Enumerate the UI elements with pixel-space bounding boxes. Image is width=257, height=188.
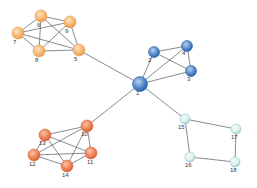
node-label: 10 (81, 131, 88, 137)
node-label: 5 (74, 56, 78, 62)
node-5[interactable]: 5 (73, 44, 85, 62)
node-15[interactable]: 15 (178, 114, 190, 130)
node-label: 13 (39, 140, 46, 146)
node-circle[interactable] (61, 160, 73, 172)
node-label: 14 (62, 172, 69, 178)
node-label: 11 (87, 159, 94, 165)
node-3[interactable]: 3 (186, 66, 197, 83)
node-label: 12 (29, 161, 36, 167)
node-12[interactable]: 12 (28, 149, 40, 167)
node-17[interactable]: 17 (231, 124, 241, 140)
node-10[interactable]: 10 (81, 120, 93, 137)
edge-16-18 (190, 157, 235, 162)
node-label: 8 (35, 57, 39, 63)
nodes-layer: 123456789101112131415161718 (12, 10, 241, 178)
node-circle[interactable] (28, 149, 40, 161)
node-2[interactable]: 2 (148, 47, 160, 64)
node-circle[interactable] (149, 47, 160, 58)
node-label: 7 (13, 39, 17, 45)
node-label: 15 (178, 124, 185, 130)
node-circle[interactable] (186, 66, 197, 77)
node-label: 9 (65, 28, 69, 34)
node-label: 3 (187, 76, 191, 82)
node-8[interactable]: 8 (33, 45, 45, 63)
node-4[interactable]: 4 (182, 41, 193, 57)
node-11[interactable]: 11 (85, 147, 97, 165)
node-circle[interactable] (33, 45, 45, 57)
node-label: 18 (230, 167, 237, 173)
edge-8-9 (39, 22, 70, 51)
node-circle[interactable] (12, 27, 24, 39)
node-6[interactable]: 6 (35, 10, 47, 28)
edge-1-10 (87, 84, 140, 126)
network-graph: 123456789101112131415161718 (0, 0, 257, 188)
edge-15-16 (185, 119, 190, 157)
node-circle[interactable] (73, 44, 85, 56)
edge-11-12 (34, 153, 91, 155)
node-13[interactable]: 13 (39, 129, 51, 146)
node-1[interactable]: 1 (133, 77, 148, 97)
node-circle[interactable] (180, 114, 190, 124)
node-circle[interactable] (85, 147, 97, 159)
edge-1-15 (140, 84, 185, 119)
node-circle[interactable] (230, 157, 240, 167)
node-circle[interactable] (35, 10, 47, 22)
edges-layer (18, 16, 236, 166)
node-7[interactable]: 7 (12, 27, 24, 45)
node-circle[interactable] (64, 16, 76, 28)
node-16[interactable]: 16 (185, 152, 195, 168)
edge-11-13 (45, 135, 91, 153)
node-9[interactable]: 9 (64, 16, 76, 34)
edge-1-5 (79, 50, 140, 84)
node-circle[interactable] (231, 124, 241, 134)
node-label: 17 (231, 134, 238, 140)
node-circle[interactable] (185, 152, 195, 162)
node-18[interactable]: 18 (230, 157, 240, 173)
edge-15-17 (185, 119, 236, 129)
node-circle[interactable] (133, 77, 148, 92)
node-label: 16 (185, 162, 192, 168)
node-14[interactable]: 14 (61, 160, 73, 178)
